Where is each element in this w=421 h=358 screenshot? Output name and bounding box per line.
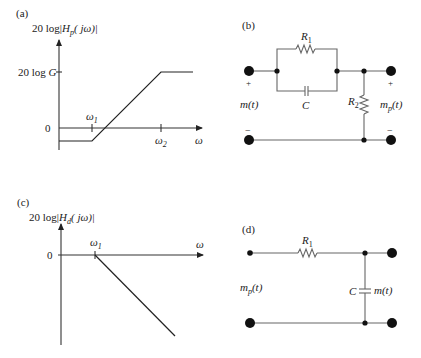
figure-canvas: (a) 20 log|Hp( jω)| 20 log G 0 ω1 ω2 ω (…	[0, 0, 421, 358]
panel-c-y-axis-label: 20 log|Hd( jω)|	[29, 211, 95, 226]
panel-b-input-terminal-minus	[244, 135, 254, 145]
panel-b-output-voltage-label: mp(t)	[380, 98, 403, 113]
panel-b-input-terminal-plus	[244, 66, 254, 76]
panel-b-node	[361, 137, 366, 142]
panel-a-x-tick-label-omega1: ω1	[86, 110, 98, 125]
panel-d-c-label: C	[349, 285, 357, 297]
panel-d-node	[362, 250, 367, 255]
panel-a-x-axis-label: ω	[195, 134, 203, 146]
panel-d-output-terminal-bottom	[387, 318, 397, 328]
panel-d-r1-label: R1	[301, 234, 313, 249]
panel-b-input-plus-sign: +	[246, 78, 251, 88]
panel-b-wire	[308, 71, 337, 91]
panel-d-input-node	[247, 250, 253, 256]
panel-d-deemphasis-circuit: (d) R1 C m(t) mp(t)	[240, 223, 397, 328]
panel-b-node	[274, 68, 279, 73]
panel-b-r2-label: R2	[347, 95, 359, 110]
panel-a-y-tick-label-20logG: 20 log G	[18, 66, 57, 78]
panel-c-y-tick-label-zero: 0	[47, 249, 53, 261]
panel-c-x-tick-label-omega1: ω1	[90, 236, 102, 251]
panel-a-tag: (a)	[16, 7, 29, 20]
panel-c-x-axis-label: ω	[196, 238, 204, 250]
panel-b-resistor-r1	[296, 45, 315, 53]
panel-b-r1-label: R1	[300, 30, 312, 45]
panel-a-magnitude-curve	[59, 72, 193, 141]
panel-a-y-tick-label-zero: 0	[45, 122, 51, 134]
panel-d-node	[362, 320, 367, 325]
panel-b-output-minus-sign: −	[387, 125, 393, 136]
panel-d-input-terminal-bottom	[245, 318, 255, 328]
panel-a-x-tick-label-omega2: ω2	[155, 134, 167, 149]
panel-b-preemphasis-circuit: (b) R1 C R2 m(t) mp(t) + +	[240, 19, 403, 145]
panel-b-output-terminal-minus	[386, 135, 396, 145]
panel-b-tag: (b)	[242, 19, 255, 32]
panel-d-tag: (d)	[242, 223, 255, 236]
panel-b-input-minus-sign: −	[245, 125, 251, 136]
panel-b-c-label: C	[302, 99, 310, 111]
panel-d-input-voltage-label: mp(t)	[240, 281, 263, 296]
panel-d-output-terminal-top	[387, 248, 397, 258]
panel-d-resistor-r1	[298, 249, 317, 257]
panel-b-output-plus-sign: +	[388, 78, 393, 88]
panel-b-input-voltage-label: m(t)	[240, 98, 259, 111]
panel-d-output-voltage-label: m(t)	[374, 284, 393, 297]
panel-a-bode-preemphasis: (a) 20 log|Hp( jω)| 20 log G 0 ω1 ω2 ω	[16, 7, 203, 150]
panel-b-node	[334, 68, 339, 73]
panel-c-tag: (c)	[17, 196, 30, 209]
panel-b-wire	[277, 71, 305, 91]
panel-b-output-terminal-plus	[386, 66, 396, 76]
panel-c-bode-deemphasis: (c) 20 log|Hd( jω)| 0 ω1 ω	[17, 196, 204, 345]
panel-b-node	[361, 68, 366, 73]
panel-b-resistor-r2	[360, 95, 368, 114]
panel-a-y-axis-label: 20 log|Hp( jω)|	[32, 22, 98, 37]
panel-b-wire	[315, 49, 337, 71]
panel-b-wire	[277, 49, 296, 71]
panel-c-magnitude-curve	[95, 255, 175, 336]
